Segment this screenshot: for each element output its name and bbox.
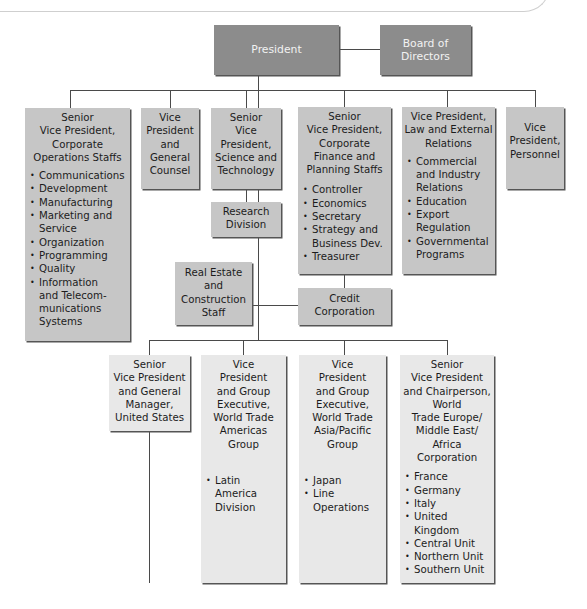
list-item: Communications <box>30 169 128 182</box>
box-title-line: Middle East/ <box>400 424 494 437</box>
connector-row2-drop-2 <box>243 340 244 355</box>
real-estate-construction-box: Real Estate and Construction Staff <box>175 262 252 325</box>
list-item: Italy <box>405 497 492 510</box>
box-title-line: President, <box>211 138 281 151</box>
box-title-line: Staff <box>175 306 252 319</box>
list-item: Central Unit <box>405 537 492 550</box>
vp-general-counsel-box: Vice President and General Counsel <box>141 108 199 189</box>
box-title-line: and Chairperson, <box>400 385 494 398</box>
box-title-line: Vice President <box>109 371 190 384</box>
box-title-line: Vice President, <box>298 123 391 136</box>
list-item: Programming <box>30 249 128 262</box>
box-title-line: Senior <box>25 111 130 124</box>
svp-europe-list: France Germany Italy United Kingdom Cent… <box>400 470 494 576</box>
connector-row1-drop-5 <box>447 90 448 107</box>
list-item: United Kingdom <box>405 510 492 537</box>
box-title-line: Africa <box>400 438 494 451</box>
list-item: Marketing and Service <box>30 209 128 236</box>
box-title-line: Construction <box>175 293 252 306</box>
box-title-line: Senior <box>109 358 190 371</box>
box-title-line: and Group <box>299 385 386 398</box>
vp-law-external-box: Vice President, Law and External Relatio… <box>402 107 495 274</box>
connector-science-research <box>246 189 247 202</box>
box-title-line: Vice President, <box>402 110 495 123</box>
box-title-line: Vice <box>211 124 281 137</box>
box-title-line: and General <box>109 385 190 398</box>
page-border-rim <box>0 0 550 12</box>
box-title-line: and <box>175 279 252 292</box>
svp-corporate-operations-box: Senior Vice President, Corporate Operati… <box>25 108 130 341</box>
box-title-line: Corporate <box>25 138 130 151</box>
connector-president-board <box>339 49 380 50</box>
box-title-line: Corporate <box>298 137 391 150</box>
box-title-line: World Trade <box>201 411 286 424</box>
box-title-line: President <box>201 371 286 384</box>
board-of-directors-box: Board of Directors <box>380 25 471 75</box>
box-title-line: Trade Europe/ <box>400 411 494 424</box>
list-item: Line Operations <box>304 487 368 514</box>
vp-americas-box: Vice President and Group Executive, Worl… <box>201 355 286 583</box>
connector-row1-drop-6b <box>535 90 536 107</box>
svp-finance-planning-list: Controller Economics Secretary Strategy … <box>298 183 391 263</box>
vp-law-external-list: Commercial and Industry Relations Educat… <box>402 155 495 261</box>
box-title-line: Vice <box>506 121 564 134</box>
box-title-line: Corporation <box>400 451 494 464</box>
box-title-line: Counsel <box>141 164 199 177</box>
connector-row1-drop-4 <box>344 90 345 107</box>
box-title-line: Real Estate <box>175 266 252 279</box>
box-title-line: Law and External <box>402 123 495 136</box>
board-label-line: Directors <box>401 50 450 63</box>
list-item: Education <box>407 195 493 208</box>
box-title-line: Vice <box>141 111 199 124</box>
box-title-line: Vice <box>299 358 386 371</box>
board-label-line: Board of <box>403 37 449 50</box>
svp-europe-box: Senior Vice President and Chairperson, W… <box>400 355 494 583</box>
list-item: Organization <box>30 236 128 249</box>
connector-row2-drop-3 <box>344 340 345 355</box>
vp-americas-list: Latin America Division <box>201 474 286 514</box>
research-division-box: Research Division <box>211 202 281 237</box>
connector-us-down <box>149 431 150 583</box>
list-item: Strategy and Business Dev. <box>303 223 389 250</box>
box-title-line: Americas <box>201 424 286 437</box>
list-item: Southern Unit <box>405 563 492 576</box>
box-title-line: Relations <box>402 137 495 150</box>
list-item: Germany <box>405 484 492 497</box>
box-title-line: President <box>299 371 386 384</box>
list-item: Quality <box>30 262 128 275</box>
box-title-line: Executive, <box>299 398 386 411</box>
president-label: President <box>251 43 301 56</box>
vp-asia-pacific-box: Vice President and Group Executive, Worl… <box>299 355 386 583</box>
box-title-line: Senior <box>211 111 281 124</box>
list-item: Manufacturing <box>30 196 128 209</box>
box-title-line: General <box>141 151 199 164</box>
box-title-line: Vice <box>201 358 286 371</box>
president-box: President <box>214 25 339 75</box>
connector-row2-bus <box>149 340 447 341</box>
list-item: Economics <box>303 197 389 210</box>
connector-row1-drop-2 <box>170 90 171 108</box>
box-title-line: Asia/Pacific <box>299 424 386 437</box>
box-title-line: Personnel <box>506 148 564 161</box>
list-item: Northern Unit <box>405 550 492 563</box>
box-title-line: Finance and <box>298 150 391 163</box>
vp-asia-pacific-list: Japan Line Operations <box>299 474 386 514</box>
svp-science-technology-box: Senior Vice President, Science and Techn… <box>211 108 281 189</box>
box-title-line: Credit <box>298 292 391 305</box>
box-title-line: Science and <box>211 151 281 164</box>
vp-personnel-box: Vice President, Personnel <box>506 107 564 189</box>
box-title-line: Senior <box>400 358 494 371</box>
box-title-line: Senior <box>298 110 391 123</box>
connector-row1-drop-1 <box>70 90 71 108</box>
connector-row1-bus-ext <box>477 90 535 91</box>
list-item: Secretary <box>303 210 389 223</box>
box-title-line: United States <box>109 411 190 424</box>
svp-gm-us-box: Senior Vice President and General Manage… <box>109 355 190 431</box>
box-title-line: Planning Staffs <box>298 163 391 176</box>
list-item: Controller <box>303 183 389 196</box>
box-title-line: Division <box>211 218 281 231</box>
list-item: Commercial and Industry Relations <box>407 155 493 195</box>
credit-corporation-box: Credit Corporation <box>298 288 391 325</box>
box-title-line: Group <box>299 438 386 451</box>
box-title-line: President, <box>506 134 564 147</box>
